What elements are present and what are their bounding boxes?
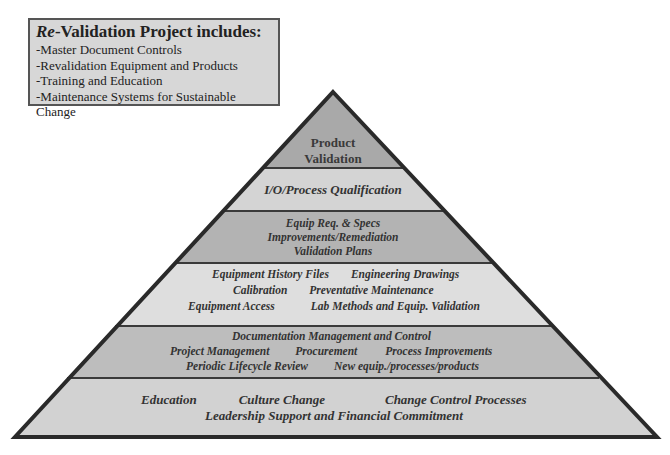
layer-documentation-text: Documentation Management and Control Pro… (160, 329, 510, 374)
process-improvements: Process Improvements (385, 344, 492, 359)
apex-line: Validation (283, 151, 383, 167)
layer-foundation-text: EducationCulture ChangeChange Control Pr… (138, 392, 538, 424)
layer-apex-text: Product Validation (283, 135, 383, 167)
leadership-support: Leadership Support and Financial Commitm… (205, 408, 463, 424)
new-equip-processes-products: New equip./processes/products (334, 359, 479, 374)
equipment-history-files: Equipment History Files (212, 266, 329, 282)
periodic-lifecycle-review: Periodic Lifecycle Review (186, 359, 308, 374)
documentation-management: Documentation Management and Control (232, 329, 431, 344)
equipment-access: Equipment Access (188, 298, 275, 314)
layer-equip-req-text: Equip Req. & Specs Improvements/Remediat… (213, 216, 453, 258)
apex-line: Product (283, 135, 383, 151)
calibration: Calibration (233, 282, 287, 298)
layer-io-text: I/O/Process Qualification (233, 182, 433, 197)
preventative-maintenance: Preventative Maintenance (309, 282, 433, 298)
validation-plans: Validation Plans (213, 244, 453, 258)
change-control-processes: Change Control Processes (385, 392, 527, 408)
education: Education (141, 392, 197, 408)
lab-methods-equip-validation: Lab Methods and Equip. Validation (311, 298, 480, 314)
layer-equipment-text: Equipment History FilesEngineering Drawi… (180, 266, 490, 314)
culture-change: Culture Change (239, 392, 325, 408)
equip-req-specs: Equip Req. & Specs (213, 216, 453, 230)
engineering-drawings: Engineering Drawings (351, 266, 459, 282)
project-management: Project Management (170, 344, 269, 359)
improvements-remediation: Improvements/Remediation (213, 230, 453, 244)
procurement: Procurement (295, 344, 357, 359)
io-process-qualification: I/O/Process Qualification (233, 182, 433, 197)
